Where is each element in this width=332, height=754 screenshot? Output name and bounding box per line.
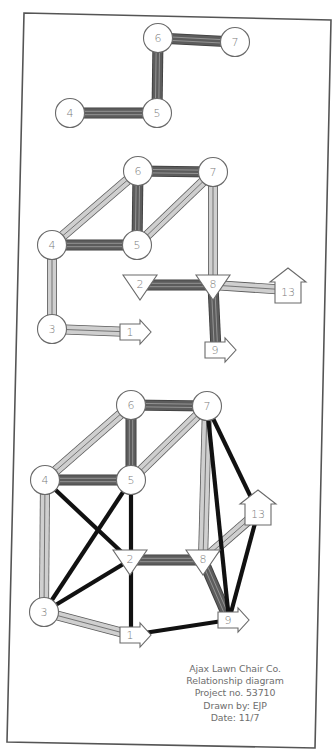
node-label: 1 — [127, 629, 134, 642]
drawn-by: Drawn by: EJP — [150, 700, 320, 712]
node-5-circle: 5 — [143, 99, 172, 128]
node-label: 2 — [137, 278, 144, 291]
relationship-diagram-canvas: 6745 67452813319 67451328319 — [0, 0, 332, 754]
node-label: 4 — [67, 107, 74, 120]
node-label: 7 — [232, 36, 239, 49]
node-label: 6 — [135, 165, 142, 178]
node-label: 8 — [210, 278, 217, 291]
edge-4-3 — [44, 480, 45, 612]
page-frame — [7, 13, 331, 748]
node-label: 3 — [41, 606, 48, 619]
node-4-circle: 4 — [31, 466, 60, 495]
node-label: 5 — [154, 107, 161, 120]
node-4-circle: 4 — [56, 99, 85, 128]
node-label: 4 — [42, 474, 49, 487]
node-6-circle: 6 — [144, 24, 173, 53]
node-label: 5 — [128, 474, 135, 487]
node-label: 7 — [210, 166, 217, 179]
diagram-title: Relationship diagram — [150, 675, 320, 687]
node-label: 13 — [251, 508, 265, 521]
node-5-circle: 5 — [117, 466, 146, 495]
project-number: Project no. 53710 — [150, 687, 320, 699]
node-label: 6 — [155, 32, 162, 45]
node-5-circle: 5 — [123, 231, 152, 260]
node-7-circle: 7 — [193, 392, 222, 421]
node-label: 7 — [204, 400, 211, 413]
node-6-circle: 6 — [124, 157, 153, 186]
node-label: 9 — [225, 614, 232, 627]
node-3-circle: 3 — [38, 315, 67, 344]
node-label: 3 — [49, 323, 56, 336]
node-label: 8 — [200, 553, 207, 566]
node-label: 2 — [127, 553, 134, 566]
node-label: 4 — [49, 239, 56, 252]
node-label: 5 — [134, 239, 141, 252]
node-label: 6 — [128, 399, 135, 412]
node-6-circle: 6 — [117, 391, 146, 420]
node-7-circle: 7 — [199, 158, 228, 187]
node-7-circle: 7 — [221, 28, 250, 57]
edge-7-8 — [203, 406, 207, 560]
node-label: 1 — [127, 326, 134, 339]
company-name: Ajax Lawn Chair Co. — [150, 663, 320, 675]
date: Date: 11/7 — [150, 712, 320, 724]
node-3-circle: 3 — [30, 598, 59, 627]
title-block: Ajax Lawn Chair Co. Relationship diagram… — [150, 663, 320, 724]
node-4-circle: 4 — [38, 231, 67, 260]
node-label: 13 — [281, 286, 295, 299]
node-label: 9 — [212, 344, 219, 357]
